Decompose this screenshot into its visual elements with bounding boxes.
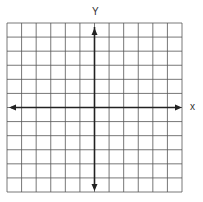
- arrow-left-icon: [9, 105, 16, 111]
- arrow-down-icon: [92, 184, 98, 191]
- axes: [9, 27, 182, 191]
- coordinate-plane: [0, 0, 203, 202]
- x-axis-label: x: [190, 102, 195, 112]
- arrow-up-icon: [92, 28, 98, 35]
- arrow-right-icon: [175, 105, 182, 111]
- y-axis-label: Y: [92, 7, 99, 17]
